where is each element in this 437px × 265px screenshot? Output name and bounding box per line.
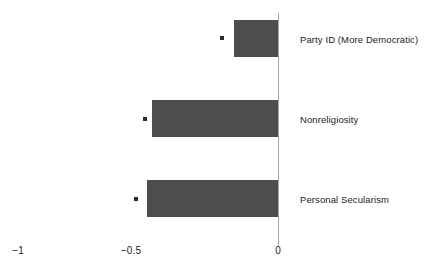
x-tick-label-minus-half: −0.5 xyxy=(111,246,151,256)
point-marker-nonreligiosity xyxy=(143,117,147,121)
bar-party-id[interactable] xyxy=(234,20,278,57)
bar-nonreligiosity[interactable] xyxy=(152,100,278,137)
point-marker-party-id xyxy=(220,36,224,40)
category-label-nonreligiosity: Nonreligiosity xyxy=(300,115,358,125)
x-tick-label-zero: 0 xyxy=(258,246,298,256)
bar-chart: Party ID (More Democratic) Nonreligiosit… xyxy=(0,0,437,265)
category-label-party-id: Party ID (More Democratic) xyxy=(300,35,418,45)
plot-area: Party ID (More Democratic) Nonreligiosit… xyxy=(0,0,437,265)
zero-axis-line xyxy=(278,13,279,240)
point-marker-personal-secularism xyxy=(134,197,138,201)
bar-personal-secularism[interactable] xyxy=(147,180,278,217)
category-label-personal-secularism: Personal Secularism xyxy=(300,195,389,205)
x-tick-label-minus-one: −1 xyxy=(0,246,38,256)
